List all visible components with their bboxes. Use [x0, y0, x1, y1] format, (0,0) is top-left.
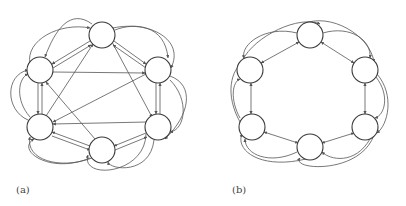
panel-b-neighbor-edges — [251, 42, 365, 143]
panel-a-neighbor-edges — [38, 41, 160, 150]
node-b-bottom — [297, 134, 323, 160]
node-b-left-top — [237, 57, 263, 83]
panel-b-nodes — [237, 22, 378, 160]
panel-a-nodes — [27, 22, 171, 163]
node-a-right-bottom — [145, 114, 171, 140]
node-a-right-top — [145, 57, 171, 83]
node-b-right-bottom — [352, 114, 378, 140]
node-a-top — [89, 22, 115, 48]
panel-a — [11, 19, 187, 171]
panel-b-label: (b) — [232, 184, 246, 195]
panel-a-label: (a) — [16, 184, 30, 195]
figure — [0, 0, 406, 206]
panel-b — [231, 21, 388, 167]
node-b-right-top — [352, 57, 378, 83]
node-a-left-top — [27, 57, 53, 83]
node-a-left-bottom — [27, 114, 53, 140]
node-b-top — [297, 22, 323, 48]
node-b-left-bottom — [239, 114, 265, 140]
node-a-bottom — [89, 137, 115, 163]
